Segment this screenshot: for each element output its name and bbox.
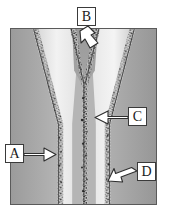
- callout-c-label[interactable]: C: [128, 107, 147, 126]
- figure-stage: A B C D: [0, 0, 169, 218]
- callout-a-label[interactable]: A: [5, 144, 24, 163]
- callout-d-label[interactable]: D: [137, 162, 156, 181]
- callout-b-label[interactable]: B: [77, 7, 96, 26]
